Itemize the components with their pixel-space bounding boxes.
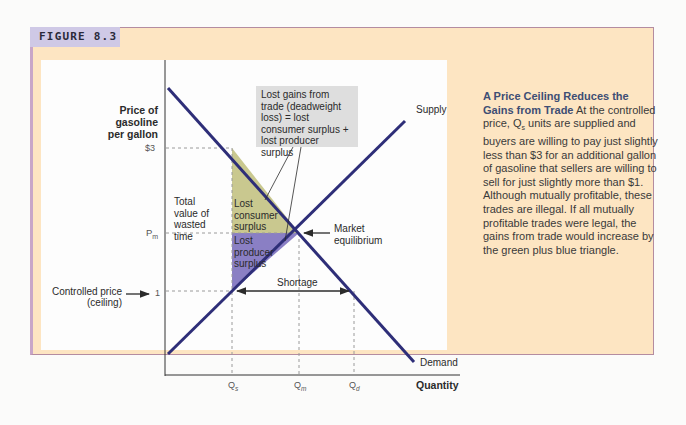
y-axis-label-line: gasoline — [98, 116, 158, 128]
x-tick-qd: Qd — [349, 380, 360, 394]
controlled-price-line: (ceiling) — [47, 297, 122, 308]
supply-label: Supply — [416, 104, 447, 115]
equilibrium-line: Market — [334, 223, 382, 235]
wasted-time-label: Total value of wasted time — [174, 196, 209, 242]
figure-caption: A Price Ceiling Reduces the Gains from T… — [483, 90, 658, 257]
deadweight-loss-callout: Lost gains from trade (deadweight loss) … — [256, 86, 358, 147]
lps-line: surplus — [234, 258, 273, 270]
x-tick-qd-letter: Q — [349, 380, 356, 390]
x-tick-qs-letter: Q — [228, 380, 235, 390]
lost-producer-surplus-label: Lost producer surplus — [234, 235, 273, 270]
controlled-price-line: Controlled price — [47, 286, 122, 297]
shortage-label: Shortage — [277, 277, 318, 288]
lcs-line: consumer — [234, 210, 278, 222]
demand-label: Demand — [420, 357, 458, 368]
y-axis-label-line: per gallon — [98, 128, 158, 140]
x-tick-qd-sub: d — [356, 385, 360, 392]
x-axis-label: Quantity — [416, 380, 459, 391]
caption-body-2: units are supplied and buyers are willin… — [483, 117, 658, 256]
wasted-time-line: wasted — [174, 219, 209, 231]
lost-consumer-surplus-label: Lost consumer surplus — [234, 198, 278, 233]
y-axis-label-line: Price of — [98, 104, 158, 116]
lcs-line: Lost — [234, 198, 278, 210]
lcs-line: surplus — [234, 221, 278, 233]
wasted-time-line: time — [174, 231, 209, 243]
wasted-time-line: value of — [174, 208, 209, 220]
x-tick-qs-sub: s — [235, 385, 238, 392]
equilibrium-line: equilibrium — [334, 235, 382, 247]
wasted-time-line: Total — [174, 196, 209, 208]
x-tick-qm-sub: m — [301, 385, 306, 392]
controlled-price-label: Controlled price (ceiling) — [47, 286, 122, 308]
y-tick-3: $3 — [145, 143, 155, 154]
lps-line: Lost — [234, 235, 273, 247]
market-equilibrium-label: Market equilibrium — [334, 223, 382, 246]
y-axis-label: Price of gasoline per gallon — [98, 104, 158, 140]
x-tick-qm: Qm — [294, 380, 306, 394]
y-tick-pm-sub: m — [152, 233, 158, 240]
x-tick-qs: Qs — [228, 380, 238, 394]
x-tick-qm-letter: Q — [294, 380, 301, 390]
lps-line: producer — [234, 247, 273, 259]
y-tick-pm: Pm — [146, 227, 158, 242]
y-tick-1: 1 — [155, 288, 160, 299]
